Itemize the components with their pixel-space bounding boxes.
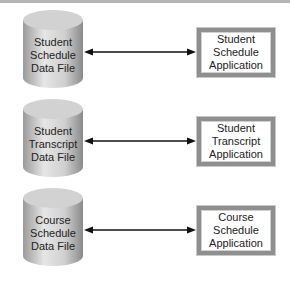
data-file-label: Student Schedule Data File	[23, 36, 83, 75]
application-box: Student Schedule Application	[197, 28, 275, 77]
data-file-label: Course Schedule Data File	[23, 214, 83, 253]
top-border	[0, 0, 290, 3]
data-file-cylinder: Student Transcript Data File	[23, 99, 83, 177]
data-file-label: Student Transcript Data File	[23, 125, 83, 164]
application-box: Course Schedule Application	[197, 206, 275, 255]
bidirectional-arrow-icon	[84, 137, 196, 145]
bidirectional-arrow-icon	[84, 226, 196, 234]
bidirectional-arrow-icon	[84, 48, 196, 56]
application-box: Student Transcript Application	[197, 117, 275, 166]
data-file-cylinder: Course Schedule Data File	[23, 188, 83, 266]
data-file-cylinder: Student Schedule Data File	[23, 10, 83, 88]
